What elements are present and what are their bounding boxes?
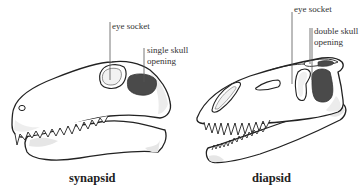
synapsid-single-opening: [127, 74, 156, 95]
diapsid-caption: diapsid: [252, 171, 291, 186]
diapsid-eye-socket-label: eye socket: [294, 4, 332, 14]
synapsid-skull: [12, 22, 171, 160]
diapsid-opening-label-line1: double skull: [314, 26, 358, 36]
diapsid-opening-label-line2: opening: [314, 37, 343, 47]
synapsid-caption: synapsid: [69, 171, 116, 186]
synapsid-nostril: [19, 105, 25, 110]
synapsid-opening-label-line2: opening: [147, 56, 176, 66]
diagram-canvas: [0, 0, 364, 191]
synapsid-eye-socket-label: eye socket: [112, 21, 150, 31]
diapsid-lower-temporal-opening: [312, 69, 333, 102]
synapsid-opening-label-line1: single skull: [147, 45, 188, 55]
